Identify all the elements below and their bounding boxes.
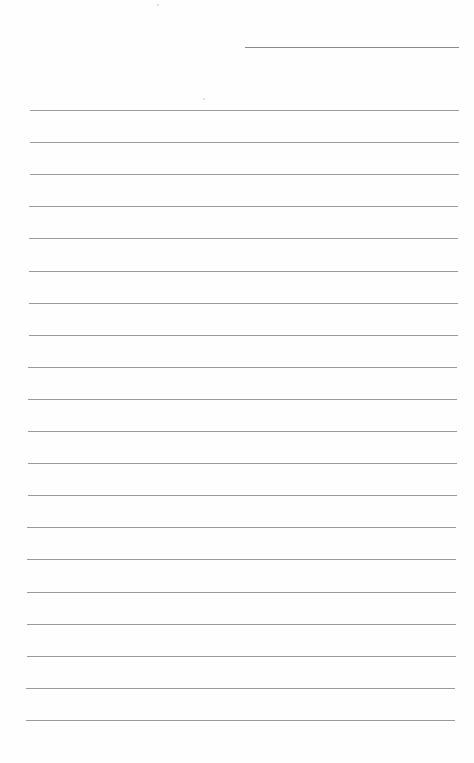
lined-paper-page (0, 0, 474, 763)
ruled-line (28, 367, 457, 368)
ruled-line (27, 527, 456, 528)
ruled-line (30, 142, 459, 143)
ruled-line (27, 624, 456, 625)
ruled-line (30, 174, 459, 175)
ruled-line (29, 335, 458, 336)
paper-speck (157, 4, 159, 6)
paper-speck (203, 98, 205, 100)
ruled-line (29, 303, 458, 304)
ruled-line (28, 495, 457, 496)
ruled-line (26, 688, 455, 689)
ruled-line (27, 656, 456, 657)
ruled-line (29, 238, 458, 239)
ruled-line (28, 399, 457, 400)
ruled-line (27, 559, 456, 560)
ruled-line (29, 206, 458, 207)
ruled-line (28, 431, 457, 432)
ruled-line (29, 271, 458, 272)
header-name-line (245, 47, 459, 48)
ruled-line (27, 592, 456, 593)
ruled-line (28, 463, 457, 464)
ruled-line (30, 110, 459, 111)
ruled-line (26, 720, 455, 721)
